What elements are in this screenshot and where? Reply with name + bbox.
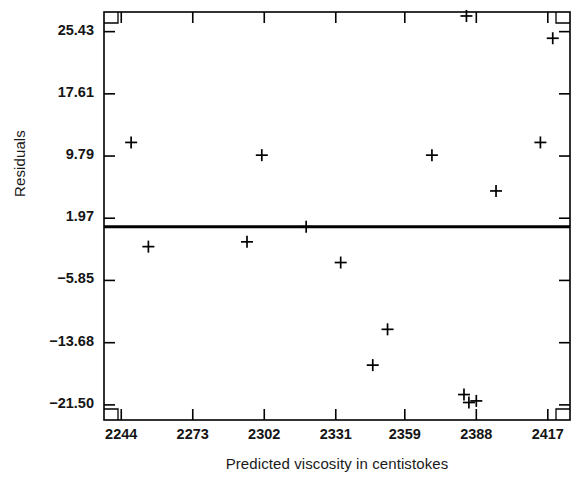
y-tick-label: 17.61 — [14, 84, 94, 100]
residual-plot-figure: Residuals Predicted viscosity in centist… — [0, 0, 582, 487]
x-tick-label: 2273 — [158, 426, 228, 442]
x-axis-tick-labels: 2244227323022331235923882417 — [0, 426, 582, 450]
data-point — [335, 257, 347, 269]
data-point — [367, 359, 379, 371]
y-axis-tick-labels: 25.4317.619.791.97−5.85−13.68−21.50 — [10, 0, 94, 487]
x-tick-label: 2302 — [229, 426, 299, 442]
y-tick-label: 25.43 — [14, 22, 94, 38]
data-point — [426, 149, 438, 161]
x-tick-label: 2388 — [441, 426, 511, 442]
y-tick-label: −13.68 — [14, 333, 94, 349]
data-point — [256, 149, 268, 161]
x-tick-label: 2359 — [370, 426, 440, 442]
x-axis-title: Predicted viscosity in centistokes — [104, 455, 570, 472]
data-point — [382, 323, 394, 335]
data-point — [490, 185, 502, 197]
x-tick-label: 2244 — [86, 426, 156, 442]
axis-frame — [104, 12, 570, 420]
data-point-layer — [125, 10, 559, 409]
y-tick-label: 1.97 — [14, 208, 94, 224]
data-point — [241, 236, 253, 248]
y-tick-label: −5.85 — [14, 270, 94, 286]
data-point — [547, 32, 559, 44]
data-point — [142, 241, 154, 253]
axis-tick-marks — [104, 12, 570, 420]
x-tick-label: 2417 — [513, 426, 582, 442]
data-point — [300, 221, 312, 233]
data-point — [125, 136, 137, 148]
x-tick-label: 2331 — [301, 426, 371, 442]
y-tick-label: 9.79 — [14, 146, 94, 162]
y-tick-label: −21.50 — [14, 395, 94, 411]
data-point — [534, 136, 546, 148]
data-point — [470, 395, 482, 407]
